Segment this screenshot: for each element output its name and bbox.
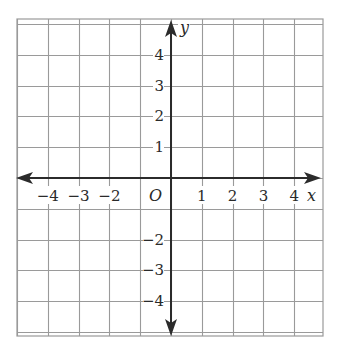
x-axis-label: x bbox=[307, 186, 316, 205]
coordinate-plane: x y O −4−3−212344321−2−3−4 bbox=[0, 0, 339, 354]
x-tick-label: 4 bbox=[289, 187, 299, 205]
y-tick-label: 3 bbox=[154, 77, 164, 95]
x-tick-label: −2 bbox=[98, 187, 120, 205]
x-tick-label: 3 bbox=[259, 187, 269, 205]
tick-labels: x y O −4−3−212344321−2−3−4 bbox=[37, 18, 317, 310]
origin-label: O bbox=[149, 186, 162, 205]
y-tick-label: −4 bbox=[142, 292, 164, 310]
y-tick-label: −3 bbox=[142, 261, 164, 279]
y-axis-label: y bbox=[179, 18, 190, 37]
y-tick-label: 4 bbox=[154, 46, 164, 64]
axes bbox=[16, 20, 321, 336]
y-tick-label: −2 bbox=[142, 231, 164, 249]
x-tick-label: −3 bbox=[68, 187, 90, 205]
x-tick-label: −4 bbox=[37, 187, 59, 205]
y-tick-label: 1 bbox=[154, 138, 164, 156]
x-tick-label: 1 bbox=[197, 187, 207, 205]
y-tick-label: 2 bbox=[154, 107, 164, 125]
x-tick-label: 2 bbox=[228, 187, 238, 205]
